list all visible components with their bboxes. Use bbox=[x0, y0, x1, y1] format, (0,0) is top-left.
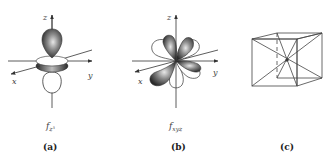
figure-canvas: z x y fz³ (a) z x y fxyz (b) bbox=[0, 0, 325, 162]
upper-lobe bbox=[42, 29, 62, 58]
cube-front-face bbox=[252, 39, 297, 86]
axis-label-z: z bbox=[166, 13, 172, 22]
x-axis bbox=[11, 66, 40, 74]
orbital-label: fxyz bbox=[168, 121, 183, 133]
panel-caption: (c) bbox=[280, 142, 294, 152]
orbital-label: fz³ bbox=[45, 121, 56, 132]
cube-top-face bbox=[252, 33, 322, 39]
axis-label-y: y bbox=[87, 71, 93, 80]
lower-lobe bbox=[43, 72, 61, 93]
panel-a-fz3-orbital: z x y fz³ (a) bbox=[8, 13, 93, 152]
panel-c-cube-diagram: (c) bbox=[252, 33, 322, 152]
axis-label-z: z bbox=[42, 13, 48, 22]
panel-caption: (b) bbox=[171, 142, 186, 152]
axis-label-x: x bbox=[12, 77, 17, 86]
panel-caption: (a) bbox=[43, 142, 57, 152]
cube-center bbox=[286, 59, 289, 62]
axis-label-y: y bbox=[212, 68, 218, 77]
axis-label-x: x bbox=[138, 77, 143, 86]
panel-b-fxyz-orbital: z x y fxyz (b) bbox=[132, 13, 218, 152]
